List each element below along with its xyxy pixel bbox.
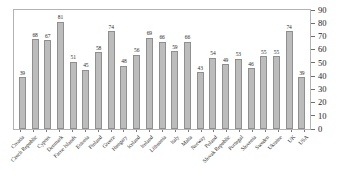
bar-item: 46 (245, 10, 258, 129)
bar-value-label: 39 (291, 70, 313, 76)
y-tick-mark (311, 115, 315, 116)
y-tick-label: 90 (318, 5, 327, 14)
bar-rect (235, 59, 242, 129)
x-tick-mark (201, 130, 202, 132)
y-tick-mark (311, 23, 315, 24)
bar-item: 69 (143, 10, 156, 129)
bar-item: 56 (130, 10, 143, 129)
bar-item: 39 (295, 10, 308, 129)
bar-rect (273, 56, 280, 129)
y-tick-mark (311, 129, 315, 130)
bar-rect (222, 64, 229, 129)
x-tick-mark (111, 130, 112, 132)
bar-rect (32, 39, 39, 129)
y-tick-label: 70 (318, 32, 327, 41)
x-tick-mark (136, 130, 137, 132)
y-axis: 0102030405060708090 (311, 9, 349, 130)
bar-rect (108, 31, 115, 129)
y-tick-label: 10 (318, 111, 327, 120)
bar-rect (70, 62, 77, 129)
y-tick-mark (311, 49, 315, 50)
y-tick-label: 80 (318, 18, 327, 27)
bar-item: 81 (54, 10, 67, 129)
bar-rect (82, 70, 89, 130)
x-tick-mark (213, 130, 214, 132)
bar-item: 43 (194, 10, 207, 129)
y-tick-label: 0 (318, 124, 322, 133)
bar-item: 59 (168, 10, 181, 129)
x-tick-mark (265, 130, 266, 132)
bar-item: 68 (29, 10, 42, 129)
y-tick-label: 40 (318, 71, 327, 80)
x-tick-mark (226, 130, 227, 132)
x-tick-mark (162, 130, 163, 132)
y-tick-label: 60 (318, 45, 327, 54)
x-tick-mark (291, 130, 292, 132)
bar-chart: 3968678151455874485669665966435449534655… (0, 0, 349, 180)
bar-rect (44, 40, 51, 129)
bar-rect (260, 56, 267, 129)
bar-rect (184, 42, 191, 129)
bar-item: 45 (80, 10, 93, 129)
x-tick-mark (20, 130, 21, 132)
bar-rect (19, 77, 26, 129)
x-tick-mark (46, 130, 47, 132)
bar-item: 39 (16, 10, 29, 129)
x-tick-label: Iceland (126, 134, 142, 150)
bar-rect (133, 55, 140, 129)
y-tick-mark (311, 89, 315, 90)
y-tick-mark (311, 36, 315, 37)
bar-item: 74 (105, 10, 118, 129)
x-tick-mark (304, 130, 305, 132)
x-tick-mark (33, 130, 34, 132)
x-axis: CroatiaCzech RepublicCyprusDenmarkFaroe … (14, 130, 310, 180)
bar-rect (171, 51, 178, 129)
bar-item: 48 (118, 10, 131, 129)
y-tick-label: 30 (318, 85, 327, 94)
x-tick-mark (59, 130, 60, 132)
bar-rect (120, 66, 127, 129)
bar-rect (286, 31, 293, 129)
x-tick-mark (278, 130, 279, 132)
bar-item: 51 (67, 10, 80, 129)
x-tick-label: USA (297, 134, 309, 146)
bar-rect (197, 72, 204, 129)
y-tick-mark (311, 62, 315, 63)
bar-rect (146, 38, 153, 129)
x-tick-mark (175, 130, 176, 132)
bar-item: 66 (156, 10, 169, 129)
x-tick-mark (123, 130, 124, 132)
y-tick-mark (311, 76, 315, 77)
bar-rect (95, 52, 102, 129)
y-tick-mark (311, 10, 315, 11)
bar-item: 53 (232, 10, 245, 129)
x-tick-mark (188, 130, 189, 132)
bar-item: 67 (41, 10, 54, 129)
x-tick-mark (85, 130, 86, 132)
x-tick-label: Estonia (74, 134, 90, 150)
bar-rect (57, 22, 64, 129)
bar-item: 54 (207, 10, 220, 129)
bar-rect (248, 68, 255, 129)
x-tick-mark (72, 130, 73, 132)
x-tick-mark (149, 130, 150, 132)
x-tick-label: UK (286, 134, 296, 144)
bar-rect (159, 42, 166, 129)
x-tick-label: Italy (169, 134, 180, 145)
bar-rect (209, 58, 216, 129)
x-tick-mark (252, 130, 253, 132)
bar-item: 55 (257, 10, 270, 129)
bars-container: 3968678151455874485669665966435449534655… (14, 10, 310, 129)
x-tick-mark (239, 130, 240, 132)
y-tick-mark (311, 102, 315, 103)
bar-rect (298, 77, 305, 129)
x-tick-mark (98, 130, 99, 132)
y-tick-label: 20 (318, 98, 327, 107)
bar-item: 49 (219, 10, 232, 129)
y-tick-label: 50 (318, 58, 327, 67)
